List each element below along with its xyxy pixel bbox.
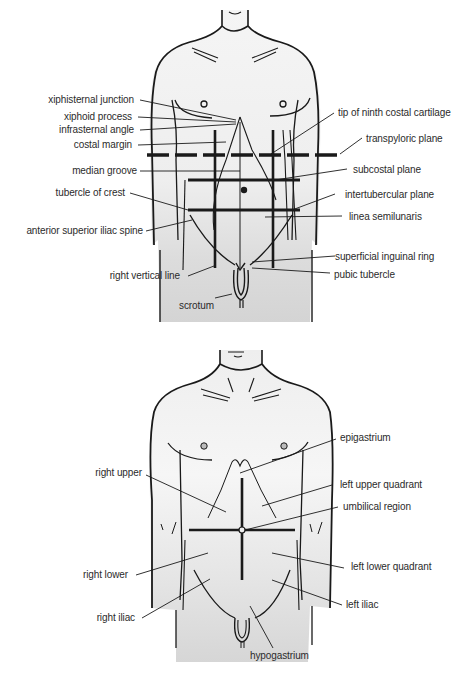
label-right-upper: right upper (95, 467, 142, 479)
label-hypogastrium: hypogastrium (250, 650, 309, 662)
label-tip-of-ninth-costal-cartilage: tip of ninth costal cartilage (338, 107, 451, 119)
label-median-groove: median groove (72, 165, 137, 177)
label-epigastrium: epigastrium (340, 432, 391, 444)
label-right-vertical-line: right vertical line (110, 270, 180, 282)
label-linea-semilunaris: linea semilunaris (349, 211, 422, 223)
label-umbilical-region: umbilical region (343, 501, 411, 513)
label-costal-margin: costal margin (74, 139, 132, 151)
bottom-figure (136, 350, 344, 662)
label-left-iliac: left iliac (346, 599, 378, 611)
label-left-upper-quadrant: left upper quadrant (340, 479, 422, 491)
label-tubercle-of-crest: tubercle of crest (56, 187, 125, 199)
label-superficial-inguinal-ring: superficial inguinal ring (335, 251, 434, 263)
label-pubic-tubercle: pubic tubercle (334, 269, 395, 281)
label-subcostal-plane: subcostal plane (353, 164, 421, 176)
label-infrasternal-angle: infrasternal angle (59, 124, 134, 136)
label-intertubercular-plane: intertubercular plane (345, 189, 434, 201)
label-xiphisternal-junction: xiphisternal junction (48, 94, 134, 106)
label-left-lower-quadrant: left lower quadrant (351, 561, 431, 573)
label-right-lower: right lower (83, 569, 128, 581)
label-anterior-superior-iliac-spine: anterior superior iliac spine (26, 225, 143, 237)
label-scrotum: scrotum (179, 300, 214, 312)
label-xiphoid-process: xiphoid process (64, 111, 132, 123)
label-right-iliac: right iliac (97, 612, 135, 624)
label-transpyloric-plane: transpyloric plane (366, 133, 443, 145)
